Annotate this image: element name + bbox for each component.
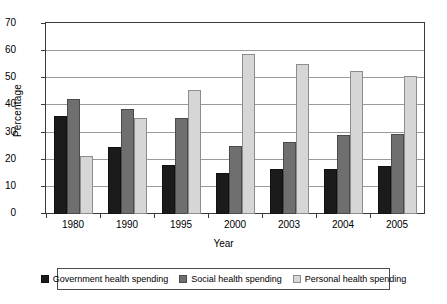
- x-tick-label: 1995: [151, 219, 211, 230]
- y-tick-label: 60: [0, 45, 16, 55]
- bar: [188, 90, 201, 214]
- x-tick-label: 2003: [259, 219, 319, 230]
- x-tick-mark: [46, 214, 47, 218]
- bar: [121, 109, 134, 214]
- bar: [404, 76, 417, 214]
- bar: [67, 99, 80, 214]
- bar: [54, 116, 67, 214]
- bar-chart: Percentage 010203040506070 1980199019952…: [0, 0, 447, 304]
- bar-group: [316, 23, 370, 214]
- x-tick-mark: [100, 214, 101, 218]
- bar: [296, 64, 309, 214]
- legend-item: Social health spending: [179, 274, 282, 284]
- y-tick-mark: [41, 159, 45, 160]
- x-tick-mark: [208, 214, 209, 218]
- bar: [283, 142, 296, 214]
- bar: [108, 147, 121, 214]
- bar: [162, 165, 175, 214]
- bars-layer: [46, 23, 424, 214]
- bar-group: [370, 23, 424, 214]
- x-axis-title: Year: [0, 238, 447, 249]
- bar-group: [154, 23, 208, 214]
- y-tick-label: 40: [0, 99, 16, 109]
- bar: [391, 134, 404, 214]
- bar-group: [100, 23, 154, 214]
- y-tick-label: 30: [0, 127, 16, 137]
- legend-label: Social health spending: [191, 274, 282, 284]
- y-tick-mark: [41, 213, 45, 214]
- legend-label: Personal health spending: [305, 274, 407, 284]
- bar: [80, 156, 93, 214]
- bar: [175, 118, 188, 214]
- bar: [242, 54, 255, 214]
- legend: Government health spendingSocial health …: [57, 268, 390, 290]
- x-tick-mark: [316, 214, 317, 218]
- y-tick-label: 10: [0, 181, 16, 191]
- bar: [229, 146, 242, 214]
- y-tick-mark: [41, 104, 45, 105]
- x-tick-mark: [154, 214, 155, 218]
- y-tick-mark: [41, 23, 45, 24]
- legend-label: Government health spending: [53, 274, 169, 284]
- bar: [216, 173, 229, 214]
- y-tick-mark: [41, 50, 45, 51]
- bar: [337, 135, 350, 214]
- y-tick-label: 50: [0, 72, 16, 82]
- x-tick-label: 1980: [43, 219, 103, 230]
- y-tick-label: 70: [0, 18, 16, 28]
- bar-group: [208, 23, 262, 214]
- bar: [350, 71, 363, 214]
- legend-swatch-icon: [179, 275, 187, 283]
- legend-swatch-icon: [41, 275, 49, 283]
- legend-item: Personal health spending: [293, 274, 407, 284]
- bar-group: [46, 23, 100, 214]
- x-tick-label: 2005: [367, 219, 427, 230]
- x-tick-mark: [262, 214, 263, 218]
- x-tick-label: 2000: [205, 219, 265, 230]
- bar: [270, 169, 283, 214]
- legend-swatch-icon: [293, 275, 301, 283]
- y-tick-label: 0: [0, 208, 16, 218]
- bar: [324, 169, 337, 214]
- y-tick-label: 20: [0, 154, 16, 164]
- bar-group: [262, 23, 316, 214]
- x-tick-label: 1990: [97, 219, 157, 230]
- bar: [134, 118, 147, 214]
- x-tick-mark: [370, 214, 371, 218]
- x-tick-label: 2004: [313, 219, 373, 230]
- y-tick-mark: [41, 132, 45, 133]
- bar: [378, 166, 391, 214]
- y-tick-mark: [41, 77, 45, 78]
- legend-item: Government health spending: [41, 274, 169, 284]
- y-tick-mark: [41, 186, 45, 187]
